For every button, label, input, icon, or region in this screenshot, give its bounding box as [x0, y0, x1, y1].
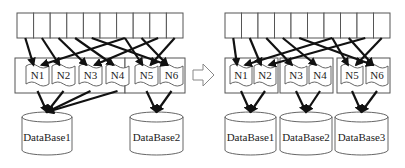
node-label: N6: [370, 69, 384, 81]
after-diagram: N1N2N3N4N5N6DataBase1DataBase2DataBase3: [225, 13, 390, 155]
partition-diagram: N1N2N3N4N5N6DataBase1DataBase2 N1N2N3N4N…: [0, 0, 405, 168]
node-label: N2: [258, 69, 271, 81]
node-label: N4: [111, 69, 125, 81]
before-diagram: N1N2N3N4N5N6DataBase1DataBase2: [15, 13, 185, 155]
database-label: DataBase2: [133, 131, 181, 143]
slot-cell: [133, 13, 150, 38]
slot-cell: [374, 13, 391, 38]
node-label: N5: [140, 69, 154, 81]
database-label: DataBase2: [282, 131, 330, 143]
slot-cell: [50, 13, 67, 38]
node-to-db-arrow: [362, 91, 378, 112]
transition-arrow-icon: [193, 64, 214, 86]
node-label: N6: [165, 69, 179, 81]
node-to-db-arrow: [38, 91, 48, 112]
database-label: DataBase1: [23, 131, 71, 143]
node-label: N3: [84, 69, 98, 81]
node-to-db-arrow: [251, 91, 266, 112]
slot-cell: [308, 13, 325, 38]
slot-cell: [341, 13, 358, 38]
node-label: N3: [289, 69, 303, 81]
slot-cell: [275, 13, 292, 38]
node-to-db-arrow: [241, 91, 251, 112]
slot-cell: [357, 13, 374, 38]
node-label: N1: [31, 69, 44, 81]
slot-cell: [291, 13, 308, 38]
node-label: N1: [234, 69, 247, 81]
node-to-db-arrow: [306, 91, 320, 112]
node-label: N2: [57, 69, 70, 81]
slot-cell: [17, 13, 34, 38]
slot-cell: [258, 13, 275, 38]
slot-cell: [242, 13, 259, 38]
slot-cell: [100, 13, 117, 38]
slot-cell: [83, 13, 100, 38]
database-label: DataBase3: [338, 131, 386, 143]
slot-cell: [324, 13, 341, 38]
node-label: N4: [313, 69, 327, 81]
node-label: N5: [345, 69, 359, 81]
node-to-db-arrow: [147, 91, 157, 112]
slot-cell: [225, 13, 242, 38]
slot-cell: [117, 13, 134, 38]
database-label: DataBase1: [227, 131, 275, 143]
slot-cell: [67, 13, 84, 38]
node-to-db-arrow: [352, 91, 362, 112]
node-to-db-arrow: [296, 91, 306, 112]
slot-cell: [166, 13, 183, 38]
slot-cell: [34, 13, 51, 38]
slot-cell: [150, 13, 167, 38]
node-to-db-arrow: [157, 91, 172, 112]
